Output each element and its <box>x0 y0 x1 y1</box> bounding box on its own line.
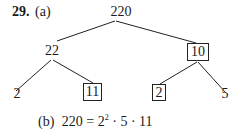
node-2-left: 2 <box>11 87 23 101</box>
part-b-label: (b) <box>38 114 54 129</box>
node-10-boxed: 10 <box>187 43 209 61</box>
problem-number: 29. <box>12 5 30 19</box>
node-22: 22 <box>42 44 62 58</box>
node-2-boxed: 2 <box>152 84 166 101</box>
edge-220-10 <box>116 21 196 43</box>
factor-rest: · 5 · 11 <box>112 114 152 129</box>
factorization-lhs: 220 <box>62 114 83 129</box>
edge-22-11 <box>53 60 93 83</box>
equals-sign: = <box>86 114 94 129</box>
factor-base: 2 <box>98 114 105 129</box>
edge-10-2 <box>160 62 197 84</box>
node-11-boxed: 11 <box>83 83 102 101</box>
factor-exponent: 2 <box>105 113 109 122</box>
node-root: 220 <box>106 5 136 19</box>
part-a-label: (a) <box>35 5 51 19</box>
node-5: 5 <box>219 87 231 101</box>
factorization-line: (b) 220 = 22 · 5 · 11 <box>38 115 153 129</box>
edge-220-22 <box>57 21 115 41</box>
